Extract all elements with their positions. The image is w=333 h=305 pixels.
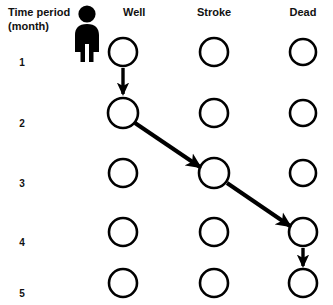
state-node-stroke-4[interactable]	[200, 218, 228, 246]
state-node-stroke-3[interactable]	[199, 158, 229, 188]
row-label-3: 3	[19, 178, 25, 189]
row-label-4: 4	[19, 237, 25, 248]
state-node-dead-3[interactable]	[290, 160, 316, 186]
state-node-well-1[interactable]	[109, 38, 137, 66]
state-node-well-3[interactable]	[109, 159, 137, 187]
column-header-stroke: Stroke	[197, 6, 231, 18]
state-node-dead-1[interactable]	[290, 39, 316, 65]
time-period-title-line1: Time period	[8, 6, 70, 18]
column-header-well: Well	[123, 6, 145, 18]
row-label-2: 2	[19, 118, 25, 129]
state-node-dead-4[interactable]	[289, 218, 317, 246]
state-node-stroke-5[interactable]	[200, 269, 228, 297]
state-node-stroke-2[interactable]	[200, 99, 228, 127]
row-label-5: 5	[19, 288, 25, 299]
state-node-dead-2[interactable]	[290, 100, 316, 126]
state-node-stroke-1[interactable]	[200, 38, 228, 66]
time-period-title-line2: (month)	[8, 20, 49, 32]
state-node-dead-5[interactable]	[289, 269, 317, 297]
state-transition-diagram: Time period (month) Well Stroke Dead 1 2…	[0, 0, 333, 305]
state-node-well-4[interactable]	[109, 218, 137, 246]
state-node-well-2[interactable]	[108, 98, 138, 128]
state-node-well-5[interactable]	[109, 269, 137, 297]
figure-background	[0, 0, 333, 305]
row-label-1: 1	[19, 57, 25, 68]
column-header-dead: Dead	[290, 6, 317, 18]
